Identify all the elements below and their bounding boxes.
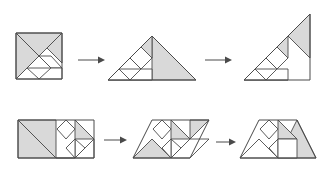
row-2-group <box>18 120 316 158</box>
piece-large-triangle-upper <box>288 14 310 58</box>
piece-parallelogram <box>278 139 297 158</box>
shape-r2s3-trapezoid[interactable] <box>240 120 316 158</box>
shape-r2s2-parallelogram[interactable] <box>133 120 209 158</box>
piece-square <box>153 120 171 139</box>
arrow-r2a2 <box>216 139 236 146</box>
shape-r1s3-tilted-right-triangle[interactable] <box>244 14 310 80</box>
piece-medium-triangle <box>171 120 190 139</box>
shape-r1s1-square[interactable] <box>16 33 62 79</box>
row-1-group <box>16 14 310 80</box>
shape-r1s2-large-triangle[interactable] <box>108 36 196 80</box>
shape-r2s1-rectangle[interactable] <box>18 120 94 158</box>
piece-medium-triangle-right <box>75 120 94 139</box>
piece-large-triangle-right <box>190 120 209 139</box>
piece-parallelogram <box>39 68 62 79</box>
tangram-figure-canvas <box>0 0 334 170</box>
piece-small-triangle-b <box>66 139 75 158</box>
piece-square <box>57 120 75 139</box>
arrow-r2a1 <box>104 137 127 144</box>
arrow-r1a2 <box>205 57 232 64</box>
piece-square <box>260 120 278 139</box>
tangram-diagram <box>0 0 334 170</box>
arrow-r1a1 <box>78 57 105 64</box>
